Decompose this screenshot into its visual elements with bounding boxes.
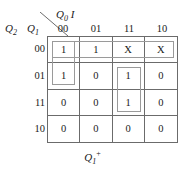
kmap-cell: X [113, 37, 145, 63]
row-header-2: 11 [17, 97, 45, 108]
kmap-cell: 0 [80, 90, 112, 116]
row-header-1: 01 [17, 70, 45, 81]
column-header-0: 00 [47, 23, 79, 34]
kmap-cell: 0 [80, 63, 112, 89]
column-header-1: 01 [80, 23, 112, 34]
kmap-cell: 0 [48, 116, 80, 142]
kmap-cell: 0 [145, 116, 177, 142]
row-variable-q2-label: Q2 [5, 22, 17, 37]
kmap-cell: 1 [80, 37, 112, 63]
kmap-cell: 1 [48, 63, 80, 89]
kmap-cell: 0 [145, 63, 177, 89]
row-header-0: 00 [17, 43, 45, 54]
kmap-cell: 0 [48, 90, 80, 116]
column-variable-q0: Q0 [56, 8, 68, 20]
row-header-3: 10 [17, 123, 45, 134]
kmap-cell: 1 [113, 90, 145, 116]
output-function-label: Q1+ [0, 149, 185, 166]
kmap-cell: 1 [48, 37, 80, 63]
column-variable-label: Q0 I [56, 8, 74, 23]
column-header-3: 10 [146, 23, 178, 34]
kmap-grid: 1 1 X X 1 0 1 0 0 0 1 0 0 0 0 0 [47, 36, 178, 143]
kmap-cell: X [145, 37, 177, 63]
column-variable-i: I [71, 8, 75, 20]
kmap-cell: 0 [145, 90, 177, 116]
kmap-cell: 0 [80, 116, 112, 142]
karnaugh-map-diagram: Q0 I Q2 Q1 00 01 11 10 00 01 11 10 1 1 X… [0, 0, 185, 174]
kmap-cell: 0 [113, 116, 145, 142]
column-header-2: 11 [113, 23, 145, 34]
row-variable-q1-label: Q1 [27, 22, 39, 37]
kmap-cell: 1 [113, 63, 145, 89]
